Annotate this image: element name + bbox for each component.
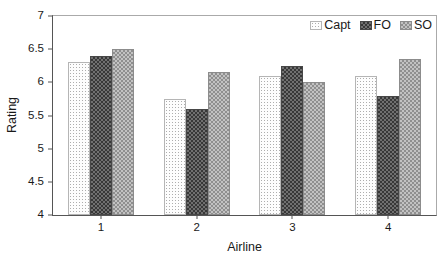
bar-groups [53,16,436,215]
bar-so-airline-4 [399,59,421,215]
legend-item-so: SO [400,19,432,32]
x-tick-label: 3 [289,222,295,234]
x-axis-title: Airline [52,240,437,254]
y-tick-label: 6 [38,77,44,89]
legend-label: SO [414,19,432,32]
legend-swatch-so [400,21,412,30]
bar-so-airline-2 [208,72,230,215]
bar-so-airline-3 [303,82,325,215]
bar-group-airline-4 [340,16,436,215]
y-tick [48,115,53,116]
plot-area: CaptFOSO 44.555.566.571234 [52,15,437,216]
y-tick [48,215,53,216]
x-tick [100,215,101,219]
bar-fo-airline-3 [281,66,303,215]
legend: CaptFOSO [310,19,432,32]
legend-label: Capt [324,19,350,32]
y-tick [48,181,53,182]
y-tick-label: 7 [38,10,44,22]
y-tick [48,16,53,17]
x-tick [196,215,197,219]
legend-swatch-capt [310,21,322,30]
y-tick-label: 4.5 [28,176,44,188]
y-tick [48,82,53,83]
legend-item-fo: FO [360,19,391,32]
bar-fo-airline-1 [90,56,112,215]
legend-item-capt: Capt [310,19,350,32]
bar-fo-airline-4 [377,96,399,215]
bar-group-airline-1 [53,16,149,215]
x-tick [388,215,389,219]
y-tick [48,148,53,149]
bar-capt-airline-3 [259,76,281,215]
legend-label: FO [374,19,391,32]
x-tick [292,215,293,219]
bar-capt-airline-1 [68,62,90,215]
bar-capt-airline-4 [355,76,377,215]
bar-so-airline-1 [112,49,134,215]
legend-swatch-fo [360,21,372,30]
y-axis-title: Rating [5,85,19,145]
x-tick-label: 1 [98,222,104,234]
y-tick [48,49,53,50]
y-tick-label: 6.5 [28,43,44,55]
bar-capt-airline-2 [164,99,186,215]
y-tick-label: 4 [38,209,44,221]
y-tick-label: 5.5 [28,110,44,122]
bar-chart-figure: Rating CaptFOSO 44.555.566.571234 Airlin… [0,0,447,261]
y-tick-label: 5 [38,143,44,155]
bar-group-airline-2 [149,16,245,215]
bar-group-airline-3 [245,16,341,215]
bar-fo-airline-2 [186,109,208,215]
x-tick-label: 2 [193,222,199,234]
x-tick-label: 4 [385,222,391,234]
